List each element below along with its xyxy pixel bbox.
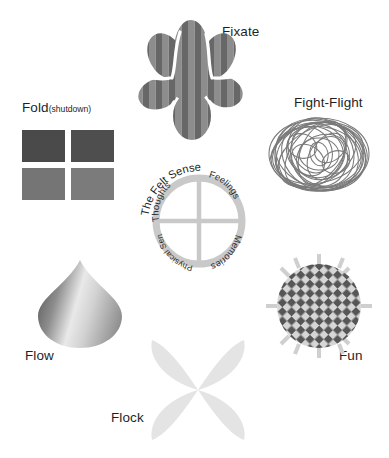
fixate-striped-flower-icon: [136, 16, 246, 144]
felt-sense-quadrant-memories: Memories: [209, 234, 244, 273]
felt-sense-diagram: The Felt Sense Thoughts Feelings Memorie…: [140, 152, 258, 274]
fold-square-top-left: [22, 130, 65, 162]
flock-four-petal-icon: [142, 338, 254, 442]
felt-sense-quadrant-feelings: Feelings: [208, 168, 243, 200]
flow-teardrop-icon: [34, 258, 126, 350]
flock-petals: [151, 340, 244, 440]
flow-teardrop-shape: [38, 260, 122, 348]
fold-sub-label-text: (shutdown): [49, 104, 92, 114]
fold-label: Fold(shutdown): [22, 100, 91, 115]
fight-flight-scribble-icon: [262, 112, 376, 196]
fold-square-bottom-left: [22, 168, 65, 200]
diagram-canvas: Fold(shutdown) Fixate: [0, 0, 389, 458]
flock-label: Flock: [111, 410, 144, 425]
fold-squares-icon: [22, 130, 114, 197]
fun-checkerboard-sun-icon: [264, 252, 374, 360]
fold-square-bottom-right: [71, 168, 114, 200]
fold-square-top-right: [71, 130, 114, 162]
flow-label: Flow: [25, 348, 54, 363]
fun-checker-circle: [277, 264, 361, 348]
fight-flight-label: Fight-Flight: [294, 95, 363, 110]
fold-label-text: Fold: [22, 100, 49, 115]
